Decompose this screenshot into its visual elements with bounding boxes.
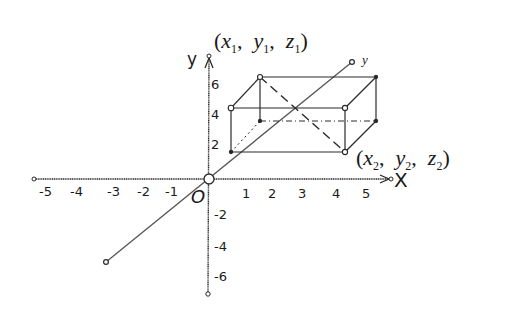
x-tick-3: 3 xyxy=(298,187,306,200)
x-arrow-icon xyxy=(380,175,389,183)
x-tick-5: 5 xyxy=(362,187,370,200)
point-1-label: (x1, y1, z1) xyxy=(214,30,308,55)
p1-y: y xyxy=(254,28,264,53)
y-tick-4: 4 xyxy=(211,108,219,121)
y-tick-6: 6 xyxy=(211,78,219,91)
x-tick-neg3: -3 xyxy=(107,185,120,198)
x-tick-neg5: -5 xyxy=(39,185,52,198)
x-tick-2: 2 xyxy=(268,187,276,200)
y-tick-neg2: -2 xyxy=(214,208,227,221)
y-axis-label: y xyxy=(187,51,197,68)
p1-x-sub: 1 xyxy=(231,42,237,56)
x-tick-1: 1 xyxy=(242,187,250,200)
p2-y: y xyxy=(396,145,406,170)
x-tick-neg2: -2 xyxy=(137,185,150,198)
p1-y-sub: 1 xyxy=(263,42,269,56)
p1-z-sub: 1 xyxy=(294,42,300,56)
p2-x: x xyxy=(363,145,373,170)
p1-x: x xyxy=(221,28,231,53)
p2-z-sub: 2 xyxy=(436,159,442,173)
y-tick-neg6: -6 xyxy=(214,270,227,283)
point-2-label: (x2, y2, z2) xyxy=(356,147,450,172)
y-tick-2: 2 xyxy=(211,138,219,151)
depth-axis-label: y xyxy=(362,53,368,66)
x-axis-label: X xyxy=(394,170,408,190)
x-tick-neg1: -1 xyxy=(165,185,178,198)
depth-axis xyxy=(104,60,355,265)
p2-x-sub: 2 xyxy=(373,159,379,173)
origin-point xyxy=(204,174,214,184)
diagram-canvas: y X y O -5 -4 -3 -2 -1 1 2 3 4 5 2 4 6 -… xyxy=(0,0,517,316)
origin-label: O xyxy=(191,188,205,206)
x-tick-neg4: -4 xyxy=(70,185,83,198)
x-tick-4: 4 xyxy=(332,187,340,200)
y-tick-neg4: -4 xyxy=(214,240,227,253)
p2-y-sub: 2 xyxy=(405,159,411,173)
rectangular-box xyxy=(231,77,376,152)
